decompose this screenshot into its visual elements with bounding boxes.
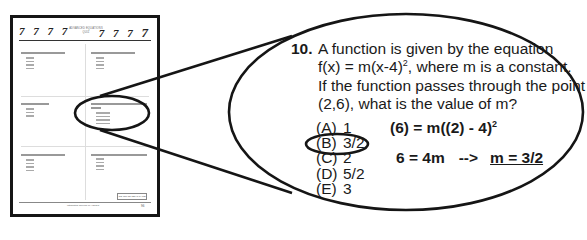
choice-d: (D)5/2 <box>316 166 365 181</box>
connector-line-top <box>100 36 292 96</box>
exponent: 2 <box>492 119 497 129</box>
small-highlight-ellipse <box>75 96 149 130</box>
question-text: A function is given by the equation f(x)… <box>318 40 568 113</box>
choice-a: (A)1 <box>316 120 365 135</box>
question-number: 10. <box>291 40 313 58</box>
answer-choices: (A)1 (B)3/2 (C)2 (D)5/2 (E)3 <box>316 120 365 196</box>
arrow: --> <box>459 149 478 166</box>
question-line: If the function passes through the point <box>318 77 568 95</box>
question-line: A function is given by the equation <box>318 40 568 58</box>
choice-e: (E)3 <box>316 181 365 196</box>
question-line: (2,6), what is the value of m? <box>318 95 568 113</box>
connector-line-bottom <box>100 130 292 193</box>
work-step-2: 6 = 4m-->m = 3/2 <box>396 149 543 167</box>
choice-c: (C)2 <box>316 150 365 165</box>
choice-b-selected: (B)3/2 <box>316 135 365 150</box>
question-line: f(x) = m(x-4)2, where m is a constant. <box>318 58 568 76</box>
final-answer: m = 3/2 <box>490 149 543 166</box>
work-step-1: (6) = m((2) - 4)2 <box>390 119 497 137</box>
